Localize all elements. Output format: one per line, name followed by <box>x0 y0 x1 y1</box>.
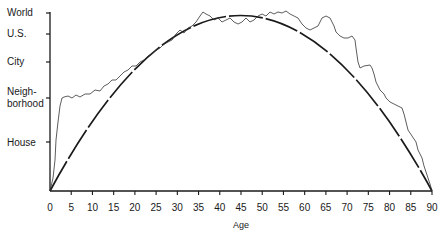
y-label-neighborhood-line1: Neigh- <box>7 86 36 97</box>
idealized-arc-line <box>50 16 432 192</box>
x-tick-label: 80 <box>384 202 396 213</box>
x-tick-label: 20 <box>129 202 141 213</box>
y-label-house: House <box>7 137 36 148</box>
x-tick-label: 35 <box>193 202 205 213</box>
x-tick-label: 30 <box>172 202 184 213</box>
x-tick-label: 40 <box>214 202 226 213</box>
x-tick-label: 25 <box>151 202 163 213</box>
x-tick-label: 5 <box>68 202 74 213</box>
x-tick-label: 60 <box>299 202 311 213</box>
x-tick-label: 70 <box>342 202 354 213</box>
x-tick-labels: 051015202530354045505560657075808590 <box>47 202 438 213</box>
chart-canvas: World U.S. City Neigh- borhood House 051… <box>0 0 442 241</box>
x-tick-label: 50 <box>257 202 269 213</box>
x-tick-label: 15 <box>108 202 120 213</box>
y-label-city: City <box>7 56 24 67</box>
x-axis-title: Age <box>233 220 249 230</box>
x-tick-label: 45 <box>235 202 247 213</box>
y-label-world: World <box>7 7 33 18</box>
x-tick-label: 85 <box>405 202 417 213</box>
x-tick-label: 65 <box>320 202 332 213</box>
y-label-us: U.S. <box>7 28 26 39</box>
x-tick-label: 75 <box>363 202 375 213</box>
x-tick-label: 10 <box>87 202 99 213</box>
x-tick-label: 55 <box>278 202 290 213</box>
y-label-neighborhood-line2: borhood <box>7 98 44 109</box>
x-tick-label: 0 <box>47 202 53 213</box>
x-tick-label: 90 <box>426 202 438 213</box>
